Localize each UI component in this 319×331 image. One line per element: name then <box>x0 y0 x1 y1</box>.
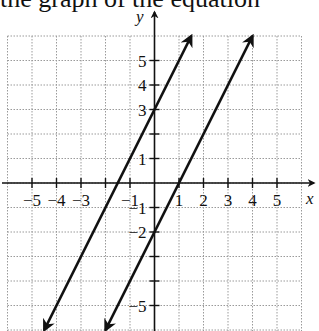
coordinate-plane: xy −5−4−3−112345−5−2−11345 <box>0 0 319 331</box>
y-tick-label: 1 <box>138 150 147 169</box>
x-axis-label: x <box>305 189 314 208</box>
x-tick-label: −4 <box>47 191 66 210</box>
y-tick-label: −5 <box>128 297 146 316</box>
x-tick-label: −3 <box>72 191 90 210</box>
x-tick-label: 4 <box>248 191 257 210</box>
y-axis-label: y <box>134 7 144 26</box>
y-tick-label: −2 <box>128 223 146 242</box>
x-tick-label: 5 <box>273 191 282 210</box>
x-tick-label: −5 <box>23 191 41 210</box>
y-tick-label: 5 <box>138 52 147 71</box>
x-tick-label: 2 <box>199 191 208 210</box>
y-tick-label: 3 <box>138 101 147 120</box>
y-tick-label: 4 <box>138 76 147 95</box>
y-tick-label: −1 <box>128 199 146 218</box>
x-tick-label: 1 <box>175 191 184 210</box>
x-tick-label: 3 <box>224 191 233 210</box>
axes: xy <box>2 7 314 331</box>
